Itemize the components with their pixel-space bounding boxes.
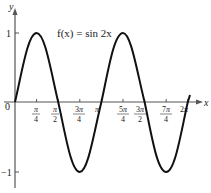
y-tick-label-1: 1 (6, 28, 11, 39)
svg-text:5π: 5π (119, 105, 128, 114)
svg-text:2: 2 (138, 115, 142, 124)
svg-text:4: 4 (34, 115, 38, 124)
x-axis-label: x (203, 97, 209, 108)
svg-text:3π: 3π (136, 105, 145, 114)
svg-text:7π: 7π (162, 105, 171, 114)
y-tick-label-neg1: −1 (1, 167, 12, 178)
y-axis-label: y (8, 1, 14, 12)
origin-label: 0 (5, 101, 10, 112)
svg-text:4: 4 (164, 115, 168, 124)
sine-chart: y x 1 −1 0 π 4 π 2 3π 4 π 5π 4 (0, 0, 211, 193)
svg-text:3π: 3π (75, 105, 84, 114)
svg-text:π: π (53, 105, 58, 114)
svg-text:2: 2 (53, 115, 57, 124)
svg-text:4: 4 (121, 115, 125, 124)
svg-text:4: 4 (77, 115, 81, 124)
function-annotation: f(x) = sin 2x (57, 27, 112, 40)
svg-text:π: π (34, 105, 39, 114)
x-axis-arrow-icon (196, 100, 203, 105)
x-tick-labels: π 4 π 2 3π 4 π 5π 4 3π 2 7π 4 2π (32, 105, 189, 124)
